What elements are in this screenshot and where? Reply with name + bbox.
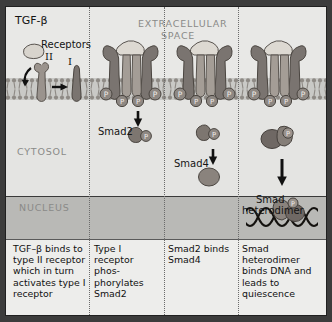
panel-divider-3 xyxy=(238,7,239,239)
panel-2-caption: Type I receptor phos- phorylates Smad2 xyxy=(94,243,162,299)
receptors-label: Receptors xyxy=(41,40,91,51)
receptor-I-left-icon xyxy=(270,55,279,97)
panel-divider-2 xyxy=(164,7,165,239)
receptor-I-label: I xyxy=(68,57,72,68)
svg-text:P: P xyxy=(212,131,216,139)
panel-3-caption: Smad2 binds Smad4 xyxy=(168,243,238,265)
receptor-I-right-icon xyxy=(206,55,215,97)
svg-text:P: P xyxy=(120,98,124,106)
smad2-label: Smad2 xyxy=(98,127,133,138)
caption-divider-2 xyxy=(164,239,165,315)
svg-text:P: P xyxy=(301,90,306,99)
receptor-II-label: II xyxy=(45,52,53,63)
svg-text:P: P xyxy=(104,90,109,99)
smad4-protein-icon xyxy=(199,168,220,186)
svg-text:P: P xyxy=(194,98,198,106)
svg-text:P: P xyxy=(252,90,257,99)
tgf-beta-label: TGF-β xyxy=(15,15,48,27)
diagram-board: P P P P P P P P P xyxy=(5,6,327,316)
panel-4-caption: Smad heterodimer binds DNA and leads to … xyxy=(242,243,324,299)
bound-tgf-beta-ligand-icon xyxy=(264,41,292,55)
svg-text:P: P xyxy=(284,98,288,106)
receptor-I-icon xyxy=(72,65,81,101)
receptor-II-icon xyxy=(34,63,48,102)
receptor-I-left-icon xyxy=(196,55,205,97)
diagram-frame: P P P P P P P P P xyxy=(0,0,332,322)
panel-1-artwork xyxy=(12,25,90,103)
panel-1-caption: TGF–β binds to type II receptor which in… xyxy=(13,243,87,299)
caption-divider-1 xyxy=(89,239,90,315)
svg-text:P: P xyxy=(153,90,158,99)
panel-3-artwork: P P P P P xyxy=(172,31,238,196)
smad4-label: Smad4 xyxy=(174,159,209,170)
receptor-I-left-icon xyxy=(122,55,131,97)
receptor-I-right-icon xyxy=(280,55,289,97)
receptor-I-right-icon xyxy=(132,55,141,97)
cytosol-label: CYTOSOL xyxy=(17,147,67,157)
caption-divider-3 xyxy=(238,239,239,315)
extracellular-space-label-line1: EXTRACELLULAR xyxy=(138,19,227,29)
bound-tgf-beta-ligand-icon xyxy=(116,41,144,55)
smad-heterodimer-cytosol-icon: P xyxy=(261,126,293,148)
svg-text:P: P xyxy=(178,90,183,99)
svg-text:P: P xyxy=(144,133,148,141)
svg-text:P: P xyxy=(136,98,140,106)
smad-heterodimer-label-line2: heterodimer xyxy=(242,206,304,217)
svg-text:P: P xyxy=(210,98,214,106)
smad-heterodimer-label-line1: Smad xyxy=(256,195,285,206)
bound-tgf-beta-ligand-icon xyxy=(190,41,218,55)
svg-text:P: P xyxy=(286,130,290,138)
extracellular-space-label-line2: SPACE xyxy=(161,31,195,41)
svg-text:P: P xyxy=(268,98,272,106)
nucleus-label: NUCLEUS xyxy=(19,203,70,213)
svg-text:P: P xyxy=(227,90,232,99)
